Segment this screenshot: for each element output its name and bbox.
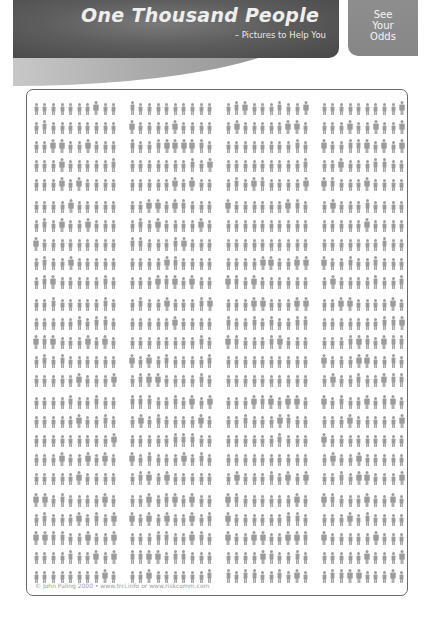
person-icon: [154, 530, 163, 545]
person-icon: [389, 372, 398, 387]
person-icon: [346, 394, 355, 409]
person-icon: [162, 157, 171, 172]
person-icon: [188, 274, 197, 289]
person-icon: [233, 157, 242, 172]
person-icon: [92, 236, 101, 251]
people-block: [32, 96, 416, 191]
person-icon: [346, 353, 355, 368]
person-icon: [32, 334, 41, 349]
person-icon: [329, 296, 338, 311]
person-icon: [301, 530, 310, 545]
person-icon: [372, 157, 381, 172]
person-icon: [66, 157, 75, 172]
person-icon: [145, 315, 154, 330]
person-icon: [301, 157, 310, 172]
person-icon: [75, 530, 84, 545]
people-group: [128, 96, 224, 191]
person-icon: [354, 394, 363, 409]
person-icon: [276, 353, 285, 368]
person-icon: [75, 432, 84, 447]
person-icon: [337, 138, 346, 153]
person-icon: [241, 315, 250, 330]
person-icon: [128, 353, 137, 368]
person-icon: [145, 176, 154, 191]
person-icon: [267, 157, 276, 172]
person-icon: [389, 176, 398, 191]
person-icon: [250, 119, 259, 134]
person-icon: [241, 198, 250, 213]
person-icon: [162, 492, 171, 507]
person-icon: [197, 549, 206, 564]
person-icon: [188, 100, 197, 115]
person-icon: [329, 470, 338, 485]
person-icon: [101, 217, 110, 232]
person-icon: [197, 568, 206, 583]
person-icon: [101, 511, 110, 526]
person-icon: [109, 530, 118, 545]
person-icon: [205, 255, 214, 270]
person-icon: [363, 217, 372, 232]
person-icon: [84, 157, 93, 172]
person-icon: [171, 315, 180, 330]
person-icon: [284, 470, 293, 485]
person-icon: [276, 530, 285, 545]
people-row: [32, 270, 128, 289]
person-icon: [233, 413, 242, 428]
person-icon: [188, 236, 197, 251]
person-icon: [145, 255, 154, 270]
person-icon: [162, 549, 171, 564]
person-icon: [346, 549, 355, 564]
person-icon: [128, 138, 137, 153]
person-icon: [337, 530, 346, 545]
person-icon: [293, 274, 302, 289]
person-icon: [84, 413, 93, 428]
person-icon: [162, 176, 171, 191]
person-icon: [346, 296, 355, 311]
person-icon: [397, 176, 406, 191]
person-icon: [162, 511, 171, 526]
person-icon: [101, 255, 110, 270]
person-icon: [180, 413, 189, 428]
person-icon: [320, 549, 329, 564]
person-icon: [145, 451, 154, 466]
person-icon: [75, 198, 84, 213]
people-row: [32, 447, 128, 466]
person-icon: [233, 236, 242, 251]
person-icon: [128, 372, 137, 387]
person-icon: [301, 315, 310, 330]
person-icon: [233, 451, 242, 466]
person-icon: [171, 236, 180, 251]
person-icon: [109, 176, 118, 191]
person-icon: [84, 568, 93, 583]
person-icon: [224, 217, 233, 232]
person-icon: [41, 296, 50, 311]
person-icon: [354, 274, 363, 289]
person-icon: [154, 138, 163, 153]
person-icon: [301, 394, 310, 409]
person-icon: [233, 334, 242, 349]
person-icon: [258, 432, 267, 447]
person-icon: [301, 255, 310, 270]
person-icon: [250, 492, 259, 507]
person-icon: [84, 236, 93, 251]
person-icon: [180, 530, 189, 545]
person-icon: [197, 315, 206, 330]
person-icon: [354, 255, 363, 270]
person-icon: [49, 138, 58, 153]
person-icon: [301, 296, 310, 311]
person-icon: [154, 432, 163, 447]
people-row: [320, 526, 416, 545]
person-icon: [337, 568, 346, 583]
people-row: [320, 270, 416, 289]
people-row: [224, 466, 320, 485]
person-icon: [337, 100, 346, 115]
person-icon: [137, 198, 146, 213]
person-icon: [397, 530, 406, 545]
person-icon: [49, 176, 58, 191]
person-icon: [329, 315, 338, 330]
person-icon: [32, 100, 41, 115]
person-icon: [380, 334, 389, 349]
person-icon: [397, 549, 406, 564]
person-icon: [250, 236, 259, 251]
person-icon: [197, 138, 206, 153]
